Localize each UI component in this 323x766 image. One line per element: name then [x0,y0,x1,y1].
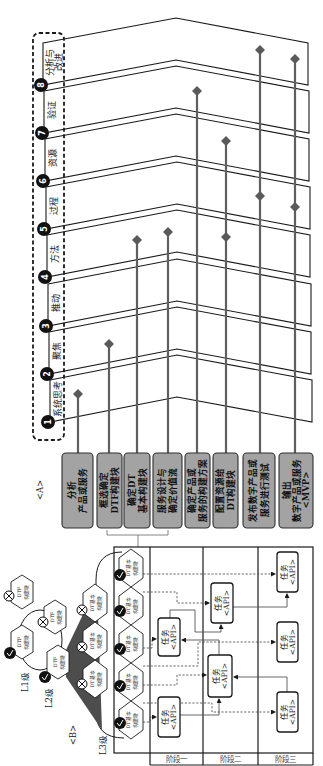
section-label-b: <B> [68,725,78,746]
task-box-stage3-a: 任务 <API> [277,552,298,592]
cross-circle-icon [77,605,87,615]
check-circle-icon [114,569,126,581]
svg-text:构建块: 构建块 [23,635,30,650]
svg-text:服务进行测试: 服务进行测试 [259,463,270,517]
svg-text:<API>: <API> [288,629,297,655]
svg-text:DTF: DTF [53,656,58,667]
chevron-bands [43,18,312,422]
svg-text:构建块: 构建块 [96,596,103,611]
svg-text:发布数字产品或: 发布数字产品或 [247,459,258,523]
check-circle-icon [114,605,126,617]
cross-circle-icon [38,617,48,627]
check-circle-icon [4,647,16,659]
task-box-stage3-c: 任务 <API> [277,692,298,732]
cross-circle-icon [4,591,14,601]
svg-text:6: 6 [39,178,48,184]
step-box-4: 服务设计与 确定价值流 [153,453,182,528]
cross-circle-icon [77,642,87,652]
svg-text:7: 7 [38,130,47,136]
badge-6: 6 [36,174,50,188]
svg-text:2: 2 [43,371,52,377]
svg-text:确定产品或: 确定产品或 [186,468,197,513]
level-label-l2: L2级 [44,688,54,708]
stage-label-3: 阶段三 [275,754,296,764]
badge-8: 8 [34,78,48,92]
task-box-stage1-b: 任务 <API> [158,697,180,737]
dtf-block-l1-b: DTF 构建块 [44,600,66,634]
svg-text:服务设计与: 服务设计与 [156,468,167,513]
svg-text:<API>: <API> [288,559,297,585]
svg-text:输出: 输出 [281,481,292,499]
svg-text:1: 1 [44,419,53,425]
badge-4: 4 [38,270,52,284]
band-label-3: 推动 [50,294,61,312]
band-label-8-line2: 改进 [53,53,64,71]
svg-text:DT基本: DT基本 [125,711,132,728]
stage-label-1: 阶段一 [166,754,188,764]
svg-text:DT构建块: DT构建块 [225,470,236,511]
step-box-6: 配置资源给 DT构建块 [213,453,238,528]
band-label-5: 过程 [48,197,59,215]
svg-text:DTF: DTF [50,611,55,622]
svg-text:8: 8 [37,82,46,88]
check-circle-icon [114,643,126,655]
badge-3: 3 [39,319,53,333]
step-box-1: 分析 产品或服务 [62,453,93,528]
svg-text:分析: 分析 [66,481,77,499]
check-circle-icon [114,680,126,692]
svg-text:确定价值流: 确定价值流 [167,468,178,513]
band-label-6: 资源 [48,149,58,167]
svg-text:DT基本: DT基本 [89,670,96,687]
step-box-7: 发布数字产品或 服务进行测试 [243,453,275,528]
svg-text:构建块: 构建块 [96,634,103,649]
badge-7: 7 [35,126,49,140]
svg-text:4: 4 [41,274,50,280]
svg-text:<API>: <API> [220,663,229,689]
svg-text:产品或服务: 产品或服务 [77,468,88,513]
section-label-a: <A> [35,480,45,500]
svg-text:配置资源给: 配置资源给 [214,468,225,513]
svg-text:构建块: 构建块 [132,637,139,652]
svg-text:确定DT: 确定DT [126,473,137,505]
svg-text:3: 3 [42,323,51,329]
step-box-3: 确定DT 基本构建块 [124,453,150,528]
svg-text:DTF构建块: DTF构建块 [109,467,120,514]
band-label-7: 验证 [46,101,57,119]
dtf-block-l2: DTF 构建块 [47,645,69,679]
svg-text:构建块: 构建块 [132,561,139,576]
svg-text:构建块: 构建块 [132,675,139,690]
svg-text:<API>: <API> [288,699,297,725]
step-box-5: 确定产品或 服务的构建方案 [185,453,210,528]
task-box-stage3-b: 任务 <API> [277,622,298,662]
step-boxes: 分析 产品或服务 框选确定 DTF构建块 确定DT 基本构建块 服务设计与 确定… [62,453,313,528]
svg-text:DT基本: DT基本 [89,632,96,649]
dt-block-column: DT基本 构建块 DT基本 构建块 DT基本 构建块 DT基本 构建块 DT基本… [114,549,143,739]
svg-text:构建块: 构建块 [23,585,30,600]
cross-circle-icon [77,679,87,689]
task-box-stage2-a: 任务 <API> [211,583,233,623]
level-label-l3: L3级 [98,735,108,755]
figure-svg: 系统思考 聚焦 推动 方法 过程 资源 验证 分析与 改进 1 2 3 4 5 … [0,0,323,766]
step-box-8: 输出 数字产品或服务 <MVP> [279,453,313,528]
svg-text:构建块: 构建块 [132,599,139,614]
check-circle-icon [39,671,51,683]
digital-twin-framework-figure: 系统思考 聚焦 推动 方法 过程 资源 验证 分析与 改进 1 2 3 4 5 … [0,0,323,766]
badge-2: 2 [40,367,54,381]
svg-text:5: 5 [40,226,49,232]
svg-text:DTF: DTF [17,586,22,597]
step-box-2: 框选确定 DTF构建块 [97,453,122,528]
band-label-4: 方法 [49,245,60,263]
svg-text:构建块: 构建块 [56,610,63,625]
svg-text:DTF: DTF [17,636,22,647]
svg-text:构建块: 构建块 [132,713,139,728]
badge-5: 5 [37,222,51,236]
svg-text:服务的构建方案: 服务的构建方案 [197,459,208,522]
bracket-connector [107,530,168,547]
svg-text:<MVP>: <MVP> [301,471,311,508]
task-boxes: 任务 <API> 任务 <API> 任务 <API> 任务 <API> 任务 <… [158,552,298,737]
svg-text:<API>: <API> [222,590,231,616]
check-circle-icon [114,717,126,729]
svg-text:框选确定: 框选确定 [98,472,109,508]
svg-text:<API>: <API> [169,624,178,650]
svg-text:DT基本: DT基本 [89,594,96,611]
